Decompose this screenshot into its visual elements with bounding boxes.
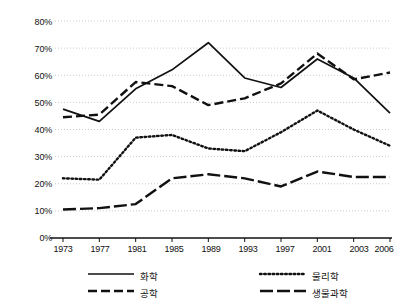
plot-area <box>0 0 407 306</box>
legend-label-chemistry: 화학 <box>140 269 158 283</box>
series-line-물리학 <box>63 111 390 180</box>
line-chart: 80% 70% 60% 50% 40% 30% 20% 10% 0% 1973 … <box>0 0 407 306</box>
series-line-공학 <box>63 54 390 118</box>
legend-label-engineering: 공학 <box>140 286 158 300</box>
series-line-생물과학 <box>63 172 390 210</box>
legend-label-physics: 물리학 <box>312 269 339 283</box>
legend-label-biological-science: 생물과학 <box>312 286 348 300</box>
series-line-화학 <box>63 43 390 122</box>
